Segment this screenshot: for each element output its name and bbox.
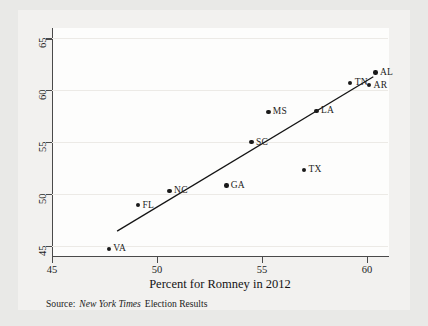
- data-point-label: VA: [113, 243, 126, 253]
- data-point-label: AL: [380, 67, 393, 77]
- y-axis-tick-label: 55: [37, 142, 48, 166]
- regression-line: [52, 28, 388, 256]
- data-point-label: NC: [174, 185, 188, 195]
- regression-line-segment: [117, 77, 373, 231]
- data-point: [373, 70, 377, 74]
- data-point: [224, 183, 228, 187]
- x-axis-title: Percent for Romney in 2012: [52, 277, 388, 292]
- y-axis-tick-label: 65: [37, 38, 48, 62]
- x-axis-tick-label: 60: [347, 264, 387, 275]
- data-point-label: SC: [256, 137, 268, 147]
- source-suffix: Election Results: [145, 298, 208, 309]
- data-point: [249, 140, 253, 144]
- source-publication: New York Times: [79, 298, 141, 309]
- data-point-label: LA: [321, 105, 334, 115]
- data-point: [314, 109, 318, 113]
- source-caption: Source:New York TimesElection Results: [46, 298, 207, 309]
- x-axis-tick-label: 45: [32, 264, 72, 275]
- y-axis-tick-label: 60: [37, 90, 48, 114]
- x-axis-tick: [157, 257, 158, 263]
- source-prefix: Source:: [46, 298, 75, 309]
- x-axis-tick: [262, 257, 263, 263]
- figure: VAFLNCGASCMSTXLATNARAL 4550556065 455055…: [0, 0, 428, 326]
- data-point-label: MS: [273, 106, 287, 116]
- data-point: [266, 110, 270, 114]
- x-axis-tick: [367, 257, 368, 263]
- data-point-label: TN: [355, 77, 368, 87]
- data-point-label: FL: [143, 200, 155, 210]
- data-point-label: GA: [231, 180, 245, 190]
- plot-area: VAFLNCGASCMSTXLATNARAL: [52, 28, 388, 256]
- y-axis-tick-label: 50: [37, 193, 48, 217]
- x-axis-tick-label: 55: [242, 264, 282, 275]
- x-axis-tick: [52, 257, 53, 263]
- data-point-label: AR: [374, 80, 388, 90]
- data-point: [167, 189, 171, 193]
- data-point: [107, 247, 111, 251]
- data-point-label: TX: [309, 164, 322, 174]
- x-axis-tick-label: 50: [137, 264, 177, 275]
